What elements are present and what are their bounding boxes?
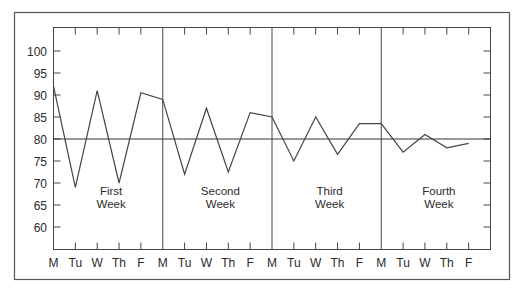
x-tick-label: M [49,256,59,270]
y-tick-label: 75 [34,155,48,169]
x-tick-label: F [465,256,472,270]
x-tick-label: W [92,256,104,270]
x-tick-label: Th [221,256,235,270]
x-tick-label: F [356,256,363,270]
x-tick-label: F [137,256,144,270]
x-tick-label: M [376,256,386,270]
y-tick-label: 60 [34,221,48,235]
y-tick-label: 90 [34,89,48,103]
week-labels: FirstWeekSecondWeekThirdWeekFourthWeek [97,185,456,210]
x-tick-label: W [419,256,431,270]
week-label-line2: Week [424,198,453,210]
x-tick-label: Tu [178,256,192,270]
week-label-line2: Week [315,198,344,210]
x-tick-label: F [246,256,253,270]
x-tick-label: Th [112,256,126,270]
week-label-line1: First [100,185,123,197]
x-tick-label: M [267,256,277,270]
y-tick-label: 70 [34,177,48,191]
outer-frame [15,13,510,280]
y-tick-label: 85 [34,111,48,125]
x-tick-label: Th [440,256,454,270]
x-tick-label: W [201,256,213,270]
week-label-line1: Second [201,185,240,197]
week-label-line1: Fourth [422,185,455,197]
week-label-line2: Week [206,198,235,210]
line-chart: 6065707580859095100 MTuWThFMTuWThFMTuWTh… [0,0,529,291]
x-tick-label: Th [331,256,345,270]
x-tick-label: Tu [69,256,83,270]
x-axis-labels: MTuWThFMTuWThFMTuWThFMTuWThF [49,256,473,270]
data-series-line [54,86,469,187]
y-tick-label: 95 [34,67,48,81]
y-tick-label: 80 [34,133,48,147]
week-label-line2: Week [97,198,126,210]
week-label-line1: Third [317,185,343,197]
y-axis-labels: 6065707580859095100 [27,45,47,235]
x-tick-label: Tu [396,256,410,270]
y-tick-label: 65 [34,199,48,213]
x-tick-label: W [310,256,322,270]
x-tick-label: M [158,256,168,270]
y-tick-label: 100 [27,45,47,59]
x-tick-label: Tu [287,256,301,270]
